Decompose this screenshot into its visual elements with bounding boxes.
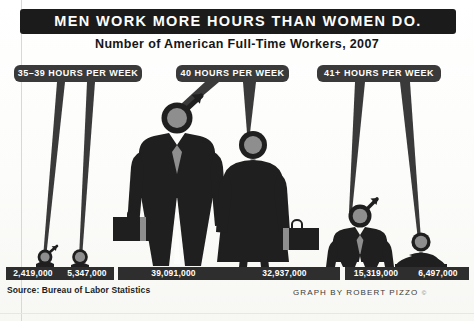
pointer-tail-g2-female — [243, 82, 256, 133]
pointer-tail-g1-female — [79, 82, 95, 258]
callout-label-35-39: 35–39 HOURS PER WEEK — [14, 65, 142, 82]
value-female-35-39: 5,347,000 — [60, 269, 114, 278]
callout-label-41-plus: 41+ HOURS PER WEEK — [317, 65, 441, 82]
value-bar-40: 39,091,000 32,937,000 — [118, 267, 340, 280]
briefcase-icon-male-40 — [113, 210, 153, 241]
figure-female-40 — [216, 131, 319, 276]
value-male-35-39: 2,419,000 — [6, 269, 60, 278]
pointer-tail-g3-male — [349, 82, 365, 212]
pointer-tail-g1-male — [43, 82, 65, 258]
page-edge-bottom — [0, 313, 474, 314]
value-female-40: 32,937,000 — [229, 269, 340, 278]
callout-label-text: 41+ HOURS PER WEEK — [324, 69, 434, 78]
page-title-bar: MEN WORK MORE HOURS THAN WOMEN DO. — [20, 9, 456, 34]
venus-symbol-head — [75, 252, 85, 262]
value-bar-41-plus: 15,319,000 6,497,000 — [345, 267, 469, 280]
pointer-tail-g2-male — [168, 82, 219, 122]
venus-symbol-head — [415, 236, 427, 248]
callout-label-40: 40 HOURS PER WEEK — [176, 65, 289, 82]
pointer-tail-g3-female — [400, 82, 421, 240]
mars-symbol-head — [353, 209, 368, 224]
source-note: Source: Bureau of Labor Statistics — [7, 285, 150, 295]
figure-male-40 — [113, 94, 227, 266]
value-female-41-plus: 6,497,000 — [407, 269, 469, 278]
venus-symbol-head — [244, 136, 262, 154]
page-title: MEN WORK MORE HOURS THAN WOMEN DO. — [54, 14, 421, 29]
briefcase-icon-female-40 — [283, 220, 319, 250]
infographic-root: MEN WORK MORE HOURS THAN WOMEN DO. Numbe… — [0, 0, 474, 321]
copyright-mark: © — [422, 290, 428, 296]
value-male-40: 39,091,000 — [118, 269, 229, 278]
figure-female-41-plus — [395, 232, 447, 268]
figure-male-35-39 — [36, 246, 57, 267]
graph-credit: GRAPH BY ROBERT PIZZO © — [293, 288, 427, 297]
figure-female-35-39 — [71, 249, 89, 267]
mars-symbol-head — [167, 108, 187, 128]
callout-label-text: 40 HOURS PER WEEK — [180, 69, 284, 78]
callout-label-text: 35–39 HOURS PER WEEK — [18, 69, 139, 78]
figure-male-41-plus — [326, 198, 394, 267]
graph-credit-text: GRAPH BY ROBERT PIZZO — [293, 288, 418, 297]
value-bar-35-39: 2,419,000 5,347,000 — [6, 267, 114, 280]
page-subtitle: Number of American Full-Time Workers, 20… — [0, 37, 474, 51]
mars-symbol-head — [40, 252, 49, 261]
value-male-41-plus: 15,319,000 — [345, 269, 407, 278]
